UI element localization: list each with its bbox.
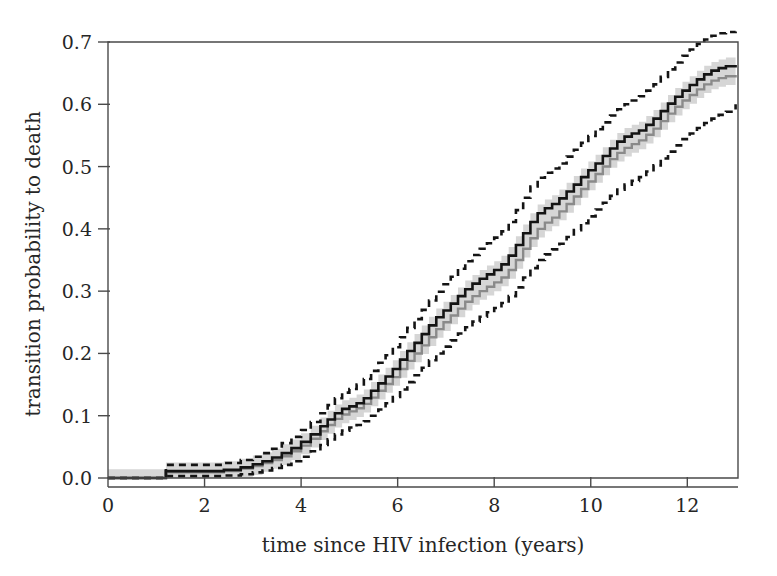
- y-tick-label: 0.0: [62, 467, 92, 489]
- figure-container: 024681012 0.00.10.20.30.40.50.60.7 time …: [0, 0, 777, 576]
- x-tick-label: 12: [675, 494, 699, 516]
- x-tick-label: 8: [488, 494, 500, 516]
- y-tick-label: 0.5: [62, 156, 92, 178]
- x-axis-title: time since HIV infection (years): [262, 533, 585, 557]
- y-tick-label: 0.1: [62, 405, 92, 427]
- y-tick-label: 0.4: [62, 218, 92, 240]
- y-tick-label: 0.6: [62, 93, 92, 115]
- y-tick-label: 0.3: [62, 280, 92, 302]
- chart-background: [0, 0, 777, 576]
- y-tick-label: 0.7: [62, 31, 92, 53]
- x-tick-label: 6: [392, 494, 404, 516]
- y-tick-label: 0.2: [62, 342, 92, 364]
- y-axis-title: transition probability to death: [21, 111, 45, 417]
- x-tick-label: 0: [102, 494, 114, 516]
- x-tick-label: 4: [295, 494, 307, 516]
- x-tick-label: 2: [199, 494, 211, 516]
- transition-probability-chart: 024681012 0.00.10.20.30.40.50.60.7 time …: [0, 0, 777, 576]
- x-tick-label: 10: [579, 494, 603, 516]
